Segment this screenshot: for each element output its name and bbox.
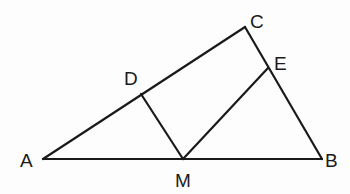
segment-cb: [245, 27, 322, 159]
label-c: C: [250, 11, 264, 32]
label-m: M: [175, 170, 191, 191]
label-b: B: [325, 150, 338, 171]
geometry-diagram: A B C D E M: [0, 0, 350, 194]
label-d: D: [124, 68, 138, 89]
label-a: A: [20, 150, 33, 171]
label-e: E: [274, 53, 287, 74]
segment-ac: [43, 27, 245, 159]
segment-me: [183, 68, 268, 159]
segment-dm: [141, 94, 183, 159]
